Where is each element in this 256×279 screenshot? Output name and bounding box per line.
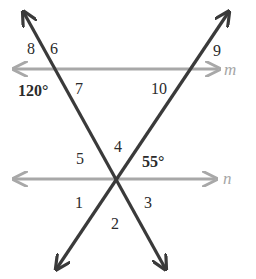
angle-label-7: 7 <box>75 80 83 97</box>
angle-label-3: 3 <box>144 194 152 211</box>
angle-label-55-degrees: 55° <box>142 153 164 170</box>
angle-label-9: 9 <box>213 42 221 59</box>
angle-label-5: 5 <box>76 150 84 167</box>
angle-label-8: 8 <box>27 40 35 57</box>
angle-label-4: 4 <box>114 138 122 155</box>
angle-label-10: 10 <box>151 80 167 97</box>
geometry-diagram: 8 6 120° 7 9 10 5 4 55° 1 3 2 m n <box>0 0 256 279</box>
line-name-m: m <box>224 60 236 79</box>
angle-label-2: 2 <box>111 215 119 232</box>
angle-label-120-degrees: 120° <box>18 82 48 99</box>
angle-label-1: 1 <box>75 194 83 211</box>
line-name-n: n <box>223 169 232 188</box>
angle-label-6: 6 <box>50 40 58 57</box>
